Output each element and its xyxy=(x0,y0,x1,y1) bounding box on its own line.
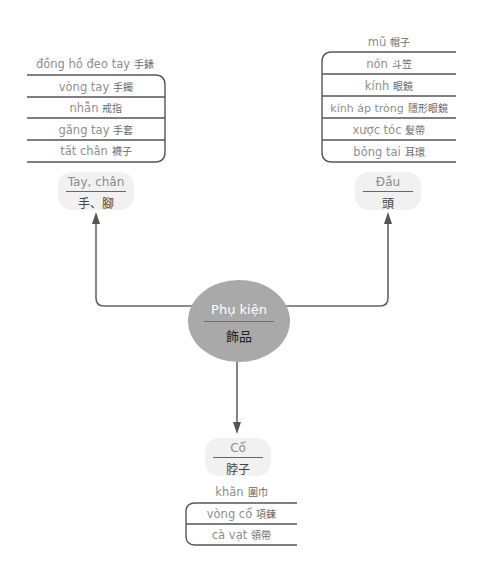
item-vi: kính áp tròng xyxy=(330,102,403,115)
item-zh: 手錶 xyxy=(134,59,154,70)
item-zh: 手套 xyxy=(113,125,133,136)
list-item-head[interactable]: kính眼鏡 xyxy=(322,78,456,93)
item-zh: 領帶 xyxy=(251,530,271,541)
divider xyxy=(363,191,413,192)
category-hands-vi: Tay, chân xyxy=(58,172,134,189)
category-head-vi: Đầu xyxy=(355,172,421,189)
item-vi: kính xyxy=(365,79,389,93)
item-zh: 手鐲 xyxy=(113,82,133,93)
item-vi: xược tóc xyxy=(353,123,402,137)
item-zh: 帽子 xyxy=(390,37,410,48)
item-vi: vòng tay xyxy=(59,80,109,94)
divider xyxy=(66,191,126,192)
item-vi: mũ xyxy=(368,35,387,49)
list-header-hands[interactable]: đồng hồ đeo tay手錶 xyxy=(10,56,180,71)
list-item-head[interactable]: bông tai耳環 xyxy=(322,144,456,159)
item-vi: nhẫn xyxy=(70,101,99,115)
divider xyxy=(213,457,263,458)
list-item-head[interactable]: nón斗笠 xyxy=(322,56,456,71)
list-item-head[interactable]: xược tóc髮帶 xyxy=(322,122,456,137)
item-vi: nón xyxy=(366,57,388,71)
category-neck-zh: 脖子 xyxy=(205,460,271,477)
list-item-hands[interactable]: tất chân襪子 xyxy=(27,143,165,158)
item-zh: 圍巾 xyxy=(248,487,268,498)
category-node-hands[interactable]: Tay, chân 手、腳 xyxy=(58,172,134,210)
category-node-head[interactable]: Đầu 頭 xyxy=(355,172,421,210)
item-zh: 眼鏡 xyxy=(393,81,413,92)
list-header-neck[interactable]: khăn圍巾 xyxy=(186,484,297,499)
list-item-head[interactable]: kính áp tròng隱形眼鏡 xyxy=(322,100,456,115)
list-item-hands[interactable]: vòng tay手鐲 xyxy=(27,79,165,94)
central-topic-vi: Phụ kiện xyxy=(188,302,290,317)
item-zh: 髮帶 xyxy=(405,125,425,136)
item-vi: tất chân xyxy=(60,144,108,158)
category-head-zh: 頭 xyxy=(355,194,421,211)
central-topic-node[interactable]: Phụ kiện 飾品 xyxy=(188,280,290,362)
item-zh: 襪子 xyxy=(112,146,132,157)
item-vi: găng tay xyxy=(59,123,110,137)
central-topic-zh: 飾品 xyxy=(188,326,290,345)
list-item-hands[interactable]: nhẫn戒指 xyxy=(27,100,165,115)
item-vi: khăn xyxy=(215,485,243,499)
category-hands-zh: 手、腳 xyxy=(58,194,134,211)
category-node-neck[interactable]: Cổ 脖子 xyxy=(205,438,271,476)
list-item-neck[interactable]: cà vạt領帶 xyxy=(186,527,297,542)
item-zh: 項鍊 xyxy=(256,509,276,520)
item-zh: 耳環 xyxy=(405,147,425,158)
item-vi: đồng hồ đeo tay xyxy=(36,57,130,71)
item-vi: vòng cổ xyxy=(207,507,252,521)
item-vi: bông tai xyxy=(353,145,400,159)
item-zh: 戒指 xyxy=(102,103,122,114)
list-item-hands[interactable]: găng tay手套 xyxy=(27,122,165,137)
central-divider xyxy=(204,321,274,322)
category-neck-vi: Cổ xyxy=(205,438,271,455)
item-zh: 隱形眼鏡 xyxy=(408,103,448,114)
item-zh: 斗笠 xyxy=(392,59,412,70)
item-vi: cà vạt xyxy=(212,528,247,542)
list-header-head[interactable]: mũ帽子 xyxy=(322,34,456,49)
list-item-neck[interactable]: vòng cổ項鍊 xyxy=(186,506,297,521)
